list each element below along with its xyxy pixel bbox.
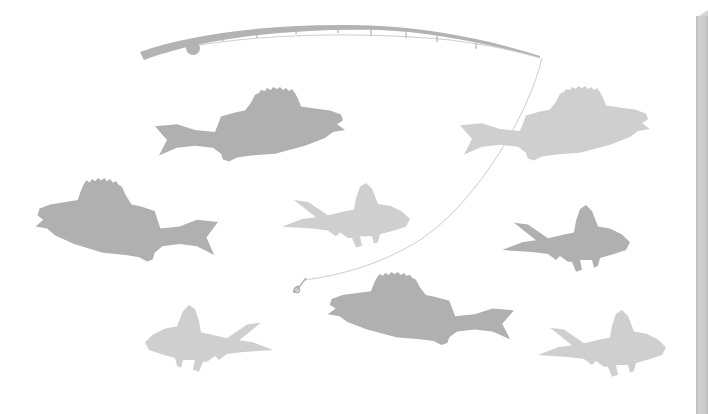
side-panel-edge: [696, 16, 708, 414]
perch-fish-top-right: [460, 86, 650, 160]
roach-fish-center: [282, 183, 410, 248]
roach-fish-right: [502, 205, 630, 272]
rod-inner-line: [200, 35, 540, 58]
perch-fish-top-left: [155, 87, 345, 161]
fishing-hook-icon: [293, 278, 306, 293]
rod-shaft: [140, 25, 540, 60]
fishing-line: [305, 58, 542, 280]
roach-fish-bottom-left: [145, 305, 273, 372]
perch-fish-middle-left: [36, 178, 218, 262]
roach-fish-bottom-right: [538, 310, 666, 377]
fishing-illustration: [0, 0, 708, 414]
fishing-rod: [140, 25, 540, 60]
perch-fish-bottom-center: [328, 272, 514, 345]
reel-icon: [186, 41, 200, 55]
